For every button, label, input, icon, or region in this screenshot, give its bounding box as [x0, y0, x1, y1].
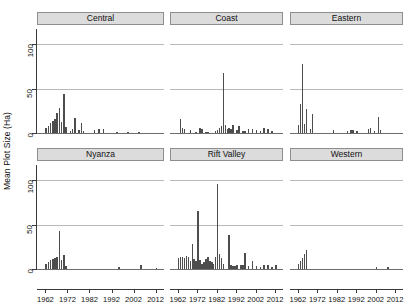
x-tick	[134, 289, 135, 293]
x-tick-label: 2012	[267, 295, 284, 304]
bar	[267, 265, 269, 269]
y-tick-label-text: 0	[26, 133, 35, 137]
bar	[94, 130, 96, 133]
x-axis-line	[170, 289, 283, 290]
bar	[347, 131, 349, 133]
y-tick-label-text: 100	[26, 44, 35, 57]
plot-inner	[37, 165, 164, 270]
bar	[244, 253, 246, 269]
bar	[352, 130, 354, 133]
x-tick	[197, 289, 198, 293]
facet-panel-rift-valley: Rift Valley196219721982199220022012	[170, 148, 283, 283]
y-tick-label: 50	[29, 89, 30, 90]
bar	[306, 109, 308, 133]
x-tick-label: 1972	[189, 295, 206, 304]
x-tick	[317, 289, 318, 293]
gridline-y-50	[37, 89, 164, 90]
bar	[387, 267, 389, 269]
bar	[376, 267, 378, 269]
bar	[256, 266, 258, 269]
bar	[275, 265, 277, 269]
axis-baseline	[290, 133, 403, 134]
axis-baseline	[170, 269, 283, 270]
bar	[306, 250, 308, 269]
y-tick-label: 50	[29, 225, 30, 226]
x-tick-label: 1982	[208, 295, 225, 304]
bar	[238, 126, 240, 133]
bar	[333, 130, 335, 133]
bar	[65, 266, 67, 269]
x-tick-label: 1992	[103, 295, 120, 304]
gridline-y-50	[290, 89, 403, 90]
x-tick-label: 2002	[247, 295, 264, 304]
bar	[263, 265, 265, 269]
plot-area	[290, 29, 403, 134]
x-tick-label: 2002	[125, 295, 142, 304]
facet-strip-text: Western	[331, 150, 363, 159]
x-tick	[178, 289, 179, 293]
bar	[312, 114, 314, 133]
facet-strip-text: Central	[87, 14, 114, 23]
gridline-y-50	[170, 225, 283, 226]
x-tick-label: 1972	[59, 295, 76, 304]
bar	[118, 267, 120, 269]
gridline-y-100	[37, 180, 164, 181]
y-tick-label-text: 0	[26, 269, 35, 273]
bar	[248, 266, 250, 269]
facet-panel-western: Western196219721982199220022012	[290, 148, 403, 283]
y-tick-label: 0	[29, 133, 30, 134]
facet-strip-text: Eastern	[332, 14, 361, 23]
x-tick	[376, 289, 377, 293]
x-tick	[67, 289, 68, 293]
facet-strip-label: Coast	[170, 12, 283, 25]
x-tick	[298, 289, 299, 293]
axis-baseline	[170, 133, 283, 134]
x-tick	[256, 289, 257, 293]
facet-panel-coast: Coast	[170, 12, 283, 147]
y-tick-label-text: 100	[26, 180, 35, 193]
facet-strip-text: Nyanza	[86, 150, 115, 159]
gridline-y-50	[170, 89, 283, 90]
x-tick	[217, 289, 218, 293]
y-tick-label: 100	[29, 44, 30, 45]
plot-inner	[37, 29, 164, 134]
facet-strip-label: Rift Valley	[170, 148, 283, 161]
y-tick-label: 0	[29, 269, 30, 270]
y-tick-label-text: 50	[26, 225, 35, 234]
y-tick-label: 100	[29, 180, 30, 181]
gridline-y-100	[37, 44, 164, 45]
x-tick-label: 1962	[37, 295, 54, 304]
bar	[103, 129, 105, 133]
plot-area: 196219721982199220022012	[290, 165, 403, 270]
gridline-y-50	[37, 225, 164, 226]
bar	[256, 130, 258, 133]
x-tick-label: 1962	[289, 295, 306, 304]
plot-inner	[290, 165, 403, 270]
bar	[248, 129, 250, 133]
x-axis-line	[290, 289, 403, 290]
x-tick-label: 1972	[309, 295, 326, 304]
bar	[223, 264, 225, 269]
facet-row-bottom: Nyanza050100196219721982199220022012Rift…	[0, 148, 410, 283]
gridline-y-100	[170, 44, 283, 45]
x-tick-label: 2012	[147, 295, 164, 304]
bar	[370, 128, 372, 133]
plot-area	[170, 29, 283, 134]
plot-area: 050100	[37, 29, 164, 134]
facet-panel-eastern: Eastern	[290, 12, 403, 147]
x-axis-line	[37, 289, 164, 290]
x-tick	[112, 289, 113, 293]
x-tick-label: 1992	[348, 295, 365, 304]
bar	[271, 131, 273, 133]
plot-area: 196219721982199220022012	[170, 165, 283, 270]
x-tick	[236, 289, 237, 293]
bar	[260, 131, 262, 133]
facet-strip-label: Western	[290, 148, 403, 161]
bar	[244, 131, 246, 133]
gridline-y-50	[290, 225, 403, 226]
plot-inner	[290, 29, 403, 134]
bar	[302, 64, 304, 133]
x-tick	[45, 289, 46, 293]
facet-row-top: Central050100CoastEastern	[0, 12, 410, 147]
bar	[98, 129, 100, 133]
